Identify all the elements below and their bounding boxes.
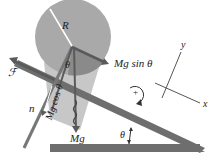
diagram-canvas — [0, 0, 222, 164]
normal-label: n — [29, 103, 35, 114]
rotation-arrowhead — [136, 99, 142, 106]
y-axis — [162, 52, 181, 98]
friction-label: ℱ — [8, 67, 17, 78]
center-angle-label: θ — [65, 60, 70, 70]
rotation-sign-label: + — [133, 88, 138, 97]
ground-base — [50, 144, 200, 152]
angle-marker-head-top — [129, 127, 133, 131]
gravity-parallel-label: Mg sin θ — [114, 58, 152, 69]
y-axis-label: y — [181, 40, 185, 50]
radius-label: R — [62, 20, 69, 31]
angle-marker-head-bottom — [127, 140, 131, 144]
gravity-label: Mg — [70, 133, 85, 144]
incline-angle-label: θ — [120, 130, 125, 140]
x-axis-label: x — [203, 99, 207, 109]
x-axis — [155, 83, 200, 103]
free-body-diagram: R ℱ n Mg Mg sin θ Mg cos θ θ θ x y + — [0, 0, 222, 164]
